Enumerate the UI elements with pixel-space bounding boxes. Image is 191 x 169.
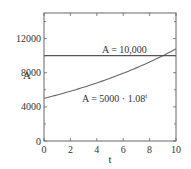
x-tick-label: 10	[171, 144, 181, 155]
annotation-exponential-base: A = 5000 · 1.08	[82, 93, 145, 104]
annotation-exponential: A = 5000 · 1.08t	[82, 92, 147, 104]
exponential-curve	[44, 49, 176, 98]
y-axis-label: A	[23, 69, 31, 81]
x-tick-label: 2	[68, 144, 73, 155]
annotation-exponential-exponent: t	[145, 92, 147, 100]
tick-marks	[44, 13, 176, 141]
annotation-constant: A = 10,000	[102, 44, 147, 55]
y-tick-label: 12000	[16, 33, 41, 44]
x-tick-label: 8	[147, 144, 152, 155]
x-axis-label: t	[108, 153, 111, 165]
plot-frame	[44, 13, 176, 141]
x-tick-label: 4	[94, 144, 99, 155]
x-tick-label: 6	[121, 144, 126, 155]
x-tick-label: 0	[42, 144, 47, 155]
chart: 024681004000800012000 A = 10,000 A = 500…	[0, 0, 191, 169]
y-tick-label: 0	[36, 136, 41, 147]
y-tick-label: 4000	[21, 101, 41, 112]
